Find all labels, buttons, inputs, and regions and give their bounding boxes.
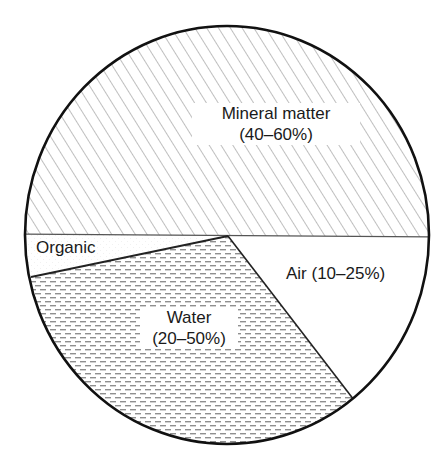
label-mineral-name: Mineral matter <box>195 103 357 124</box>
label-air: Air (10–25%) <box>283 263 388 284</box>
label-organic-text: Organic <box>36 238 96 257</box>
label-mineral-range: (40–60%) <box>195 124 357 145</box>
label-air-text: Air (10–25%) <box>286 264 385 283</box>
label-water-name: Water <box>143 307 235 328</box>
label-mineral-matter: Mineral matter (40–60%) <box>192 103 360 145</box>
label-organic: Organic <box>33 237 99 258</box>
pie-chart <box>0 0 448 470</box>
label-water-range: (20–50%) <box>143 328 235 349</box>
label-water: Water (20–50%) <box>140 307 238 349</box>
